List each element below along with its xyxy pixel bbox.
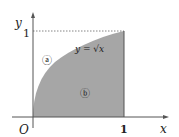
x-axis-label: x xyxy=(160,122,167,136)
region-b-label: ⓑ xyxy=(80,88,90,99)
y-axis-label: y xyxy=(14,16,22,30)
y-tick-label: 1 xyxy=(23,27,30,40)
x-tick-label: 1 xyxy=(120,123,128,136)
curve-label: y = √x xyxy=(74,44,104,54)
region-a-label: ⓐ xyxy=(42,55,52,66)
origin-label: O xyxy=(19,123,29,137)
x-axis-arrow-icon xyxy=(163,115,169,119)
area-diagram: y x O 1 1 y = √x ⓐ ⓑ xyxy=(0,0,179,137)
y-axis-arrow-icon xyxy=(31,12,35,18)
